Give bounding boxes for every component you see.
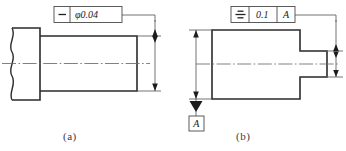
slot-arrow-down-icon [333,44,339,51]
part-b-datum-feature-symbol[interactable]: A [189,112,204,131]
part-b-leader-line [295,15,336,22]
part-b-feature-control-frame[interactable]: 0.1 A [231,7,295,23]
slot-arrow-up-icon [333,52,339,59]
caption-part-b: (b) [236,130,250,142]
part-a-leader-line [122,15,155,22]
part-a-flange [11,28,40,100]
part-b-group: A 0.1 A [189,7,343,132]
part-b-height-dimension [189,30,212,112]
part-b-block [212,30,327,99]
part-b-datum-reference: A [282,9,290,20]
arrow-down-icon [152,36,158,43]
flange-outline [12,28,40,100]
part-b-tolerance-value: 0.1 [256,9,269,20]
technical-drawing-figure: φ0.04 [0,0,346,151]
slot-arrow-bottom-icon [333,70,339,77]
part-a-group: φ0.04 [2,7,161,101]
datum-triangle-icon [190,101,203,112]
height-arrow-up-icon [193,30,199,38]
height-arrow-down-icon [193,92,199,100]
part-a-dimension [152,20,158,91]
block-outline [212,30,327,99]
part-a-feature-control-frame[interactable]: φ0.04 [54,7,122,23]
part-a-tolerance-value: φ0.04 [75,9,98,20]
drawing-canvas: φ0.04 [0,0,346,151]
caption-part-a: (a) [63,130,77,142]
break-line-icon [11,28,14,100]
part-b-slot-dimension [333,20,339,77]
datum-feature-label: A [192,118,200,129]
arrow-down-bottom-icon [152,84,158,92]
arrow-up-icon [152,29,158,37]
